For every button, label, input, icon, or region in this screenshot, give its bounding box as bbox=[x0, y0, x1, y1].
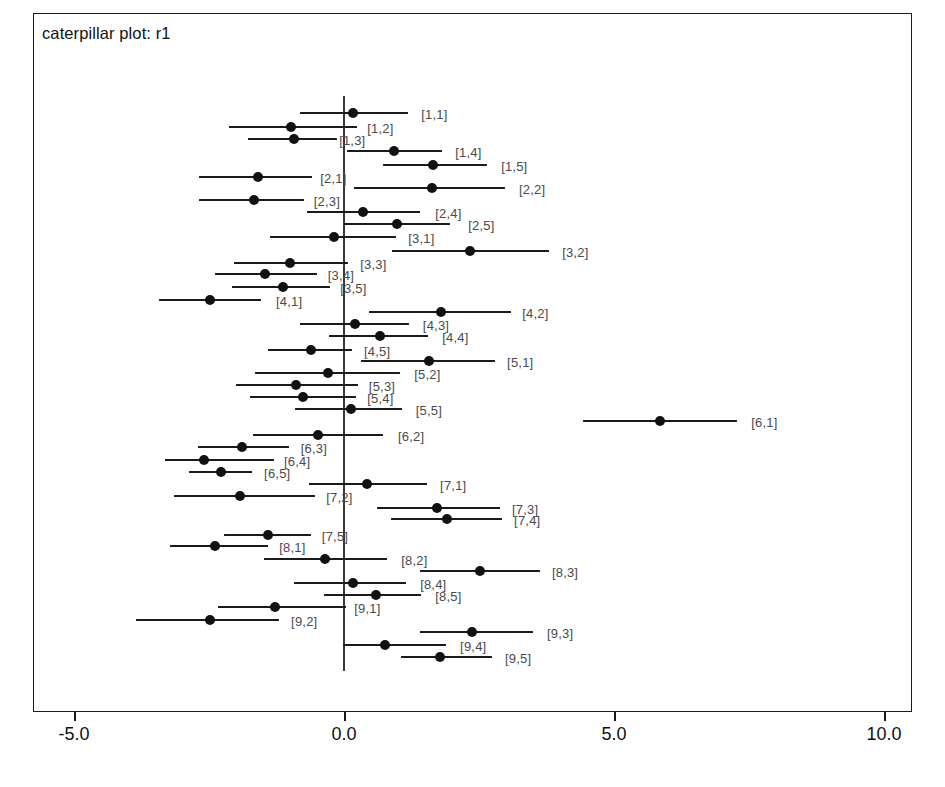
ci-mean-dot bbox=[392, 219, 402, 229]
ci-mean-dot bbox=[427, 183, 437, 193]
ci-mean-dot bbox=[375, 331, 385, 341]
ci-mean-dot bbox=[435, 652, 445, 662]
ci-mean-dot bbox=[323, 368, 333, 378]
ci-interval-line bbox=[165, 459, 274, 461]
ci-label: [4,5] bbox=[364, 344, 390, 359]
ci-mean-dot bbox=[270, 602, 280, 612]
ci-label: [5,5] bbox=[416, 403, 442, 418]
ci-label: [1,3] bbox=[339, 133, 365, 148]
ci-label: [2,3] bbox=[314, 194, 340, 209]
ci-mean-dot bbox=[253, 172, 263, 182]
ci-label: [5,2] bbox=[414, 367, 440, 382]
ci-label: [3,1] bbox=[408, 231, 434, 246]
ci-label: [3,3] bbox=[360, 257, 386, 272]
ci-label: [1,4] bbox=[455, 145, 481, 160]
ci-mean-dot bbox=[306, 345, 316, 355]
ci-mean-dot bbox=[249, 195, 259, 205]
ci-label: [9,4] bbox=[460, 639, 486, 654]
axis-tick bbox=[884, 712, 886, 721]
ci-label: [9,3] bbox=[547, 626, 573, 641]
ci-label: [4,2] bbox=[522, 306, 548, 321]
ci-label: [8,1] bbox=[279, 540, 305, 555]
ci-mean-dot bbox=[467, 627, 477, 637]
axis-tick bbox=[614, 712, 616, 721]
ci-mean-dot bbox=[424, 356, 434, 366]
ci-mean-dot bbox=[205, 615, 215, 625]
ci-mean-dot bbox=[237, 442, 247, 452]
ci-label: [5,1] bbox=[507, 355, 533, 370]
ci-interval-line bbox=[343, 644, 446, 646]
ci-mean-dot bbox=[428, 160, 438, 170]
ci-label: [3,5] bbox=[340, 281, 366, 296]
plot-frame bbox=[33, 13, 912, 712]
ci-mean-dot bbox=[465, 246, 475, 256]
ci-mean-dot bbox=[285, 258, 295, 268]
axis-tick-label: 10.0 bbox=[866, 724, 901, 745]
ci-label: [1,5] bbox=[501, 159, 527, 174]
ci-label: [3,2] bbox=[562, 245, 588, 260]
ci-label: [2,5] bbox=[468, 218, 494, 233]
ci-label: [6,1] bbox=[751, 415, 777, 430]
ci-label: [2,4] bbox=[435, 206, 461, 221]
ci-label: [7,4] bbox=[514, 513, 540, 528]
ci-mean-dot bbox=[298, 392, 308, 402]
ci-label: [7,5] bbox=[322, 529, 348, 544]
ci-label: [1,1] bbox=[421, 107, 447, 122]
ci-label: [9,1] bbox=[354, 601, 380, 616]
ci-mean-dot bbox=[313, 430, 323, 440]
ci-mean-dot bbox=[475, 566, 485, 576]
ci-mean-dot bbox=[210, 541, 220, 551]
ci-mean-dot bbox=[199, 455, 209, 465]
ci-mean-dot bbox=[205, 295, 215, 305]
ci-mean-dot bbox=[362, 479, 372, 489]
ci-mean-dot bbox=[348, 578, 358, 588]
ci-mean-dot bbox=[278, 282, 288, 292]
ci-mean-dot bbox=[358, 207, 368, 217]
ci-label: [9,2] bbox=[291, 614, 317, 629]
ci-mean-dot bbox=[291, 380, 301, 390]
ci-mean-dot bbox=[371, 590, 381, 600]
ci-label: [2,2] bbox=[519, 182, 545, 197]
ci-label: [9,5] bbox=[505, 651, 531, 666]
ci-interval-line bbox=[218, 606, 346, 608]
ci-label: [2,1] bbox=[320, 171, 346, 186]
ci-mean-dot bbox=[286, 122, 296, 132]
ci-mean-dot bbox=[350, 319, 360, 329]
ci-label: [5,4] bbox=[367, 391, 393, 406]
ci-label: [7,2] bbox=[326, 490, 352, 505]
ci-mean-dot bbox=[432, 503, 442, 513]
axis-tick-label: -5.0 bbox=[58, 724, 89, 745]
ci-label: [6,2] bbox=[398, 429, 424, 444]
ci-label: [6,5] bbox=[264, 466, 290, 481]
ci-label: [8,5] bbox=[435, 589, 461, 604]
ci-mean-dot bbox=[389, 146, 399, 156]
ci-mean-dot bbox=[329, 232, 339, 242]
ci-mean-dot bbox=[348, 108, 358, 118]
ci-mean-dot bbox=[263, 530, 273, 540]
ci-mean-dot bbox=[320, 554, 330, 564]
caterpillar-plot-screen: caterpillar plot: r1 [1,1][1,2][1,3][1,4… bbox=[0, 0, 945, 787]
axis-tick-label: 5.0 bbox=[601, 724, 626, 745]
ci-label: [8,3] bbox=[552, 565, 578, 580]
ci-mean-dot bbox=[216, 467, 226, 477]
axis-tick bbox=[344, 712, 346, 721]
ci-mean-dot bbox=[436, 307, 446, 317]
ci-mean-dot bbox=[346, 404, 356, 414]
ci-mean-dot bbox=[442, 514, 452, 524]
plot-title: caterpillar plot: r1 bbox=[42, 24, 171, 43]
ci-mean-dot bbox=[289, 134, 299, 144]
axis-tick bbox=[74, 712, 76, 721]
ci-mean-dot bbox=[235, 491, 245, 501]
ci-label: [4,4] bbox=[442, 330, 468, 345]
ci-interval-line bbox=[401, 656, 492, 658]
ci-label: [8,2] bbox=[401, 553, 427, 568]
ci-label: [1,2] bbox=[367, 121, 393, 136]
ci-mean-dot bbox=[380, 640, 390, 650]
ci-mean-dot bbox=[655, 416, 665, 426]
x-axis: -5.00.05.010.0 bbox=[33, 712, 912, 772]
ci-label: [7,1] bbox=[440, 478, 466, 493]
ci-label: [4,1] bbox=[276, 294, 302, 309]
ci-mean-dot bbox=[260, 269, 270, 279]
axis-tick-label: 0.0 bbox=[331, 724, 356, 745]
